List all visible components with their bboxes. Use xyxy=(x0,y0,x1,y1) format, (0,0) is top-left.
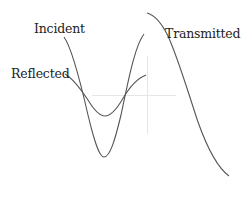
transmitted-label: Transmitted xyxy=(165,28,240,41)
wave-diagram: Incident Reflected Transmitted xyxy=(0,0,242,202)
incident-label: Incident xyxy=(34,23,85,36)
reflected-label: Reflected xyxy=(11,68,69,81)
